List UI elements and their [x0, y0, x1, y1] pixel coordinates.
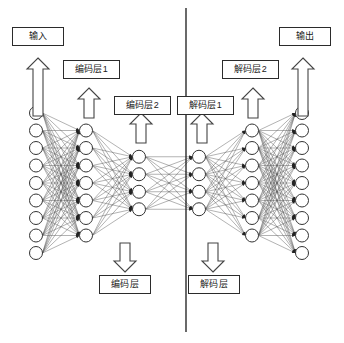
network-edge	[43, 131, 80, 254]
neuron-node-input-layer	[30, 159, 43, 172]
network-edge	[206, 209, 246, 218]
edge-arrowhead	[189, 192, 193, 195]
neuron-node-output-layer	[296, 124, 309, 137]
neuron-node-output-layer	[296, 247, 309, 260]
neuron-node-encoder-bottleneck-layer	[133, 185, 146, 198]
neuron-node-encoder-bottleneck-layer	[133, 203, 146, 216]
neuron-node-output-layer	[296, 177, 309, 190]
network-edge	[206, 131, 246, 175]
network-edge	[206, 201, 246, 210]
network-edge	[259, 113, 296, 166]
arrow-to-encoder-block	[114, 243, 136, 272]
network-edge	[93, 157, 133, 201]
network-edge	[43, 113, 80, 131]
neuron-node-decoder-bottleneck-layer	[193, 150, 206, 163]
neuron-node-encoder-hidden-layer-1	[80, 142, 93, 155]
neuron-node-encoder-bottleneck-layer	[133, 168, 146, 181]
label-decoder-layer-2: 解码层2	[222, 60, 279, 79]
neuron-node-decoder-hidden-layer-1	[246, 229, 259, 242]
network-edge	[93, 192, 133, 236]
neuron-node-encoder-hidden-layer-1	[80, 124, 93, 137]
network-edge	[206, 131, 246, 157]
network-edge	[259, 113, 296, 131]
network-edge	[259, 113, 296, 236]
network-edge	[93, 209, 133, 235]
network-edge	[93, 157, 133, 236]
label-output: 输出	[279, 27, 331, 46]
label-input: 输入	[12, 27, 64, 46]
network-edge	[206, 148, 246, 209]
neuron-node-encoder-hidden-layer-1	[80, 212, 93, 225]
label-decoder-block: 解码层	[188, 275, 240, 294]
network-edge	[259, 113, 296, 201]
neuron-node-encoder-bottleneck-layer	[133, 150, 146, 163]
network-edge	[206, 131, 246, 210]
neuron-node-output-layer	[296, 194, 309, 207]
neuron-node-encoder-hidden-layer-1	[80, 194, 93, 207]
neuron-node-decoder-hidden-layer-1	[246, 194, 259, 207]
neuron-node-decoder-hidden-layer-1	[246, 124, 259, 137]
neuron-node-decoder-hidden-layer-1	[246, 212, 259, 225]
diagram-root: 输入 编码层1 编码层2 解码层1 解码层2 输出 编码层 解码层	[0, 0, 344, 343]
neuron-node-input-layer	[30, 194, 43, 207]
neuron-node-input-layer	[30, 247, 43, 260]
neuron-node-decoder-bottleneck-layer	[193, 203, 206, 216]
network-edge	[93, 157, 133, 166]
arrow-to-input	[27, 58, 49, 116]
network-edge	[206, 183, 246, 209]
arrow-to-encoder-layer-1	[78, 88, 100, 118]
neuron-node-input-layer	[30, 212, 43, 225]
network-edge	[43, 236, 80, 254]
label-decoder-layer-1: 解码层1	[177, 96, 234, 115]
network-edge	[93, 157, 133, 183]
neuron-node-input-layer	[30, 142, 43, 155]
label-encoder-layer-1: 编码层1	[63, 60, 120, 79]
arrow-to-decoder-block	[202, 243, 224, 272]
network-edge	[93, 131, 133, 157]
neuron-node-encoder-hidden-layer-1	[80, 229, 93, 242]
arrow-to-decoder-layer-1	[191, 113, 213, 143]
neuron-node-encoder-hidden-layer-1	[80, 159, 93, 172]
network-edge	[206, 166, 246, 210]
neuron-node-output-layer	[296, 229, 309, 242]
arrow-to-decoder-layer-2	[242, 88, 264, 118]
neuron-node-input-layer	[30, 124, 43, 137]
network-edge	[93, 148, 133, 157]
network-edge	[206, 209, 246, 235]
neuron-node-decoder-bottleneck-layer	[193, 185, 206, 198]
arrow-to-encoder-layer-2	[130, 113, 152, 143]
network-edge	[93, 157, 133, 218]
neuron-node-input-layer	[30, 177, 43, 190]
network-edge	[259, 236, 296, 254]
neuron-node-output-layer	[296, 159, 309, 172]
arrow-to-output	[292, 58, 314, 116]
neuron-node-decoder-hidden-layer-1	[246, 159, 259, 172]
network-diagram-canvas	[0, 0, 344, 343]
neuron-node-decoder-hidden-layer-1	[246, 177, 259, 190]
network-edge	[43, 201, 80, 254]
neuron-node-output-layer	[296, 142, 309, 155]
neuron-node-encoder-hidden-layer-1	[80, 177, 93, 190]
label-encoder-block: 编码层	[99, 275, 151, 294]
neuron-node-decoder-bottleneck-layer	[193, 168, 206, 181]
network-edge	[43, 166, 80, 254]
label-encoder-layer-2: 编码层2	[114, 96, 171, 115]
neuron-node-output-layer	[296, 212, 309, 225]
network-edge	[206, 131, 246, 192]
neuron-node-input-layer	[30, 229, 43, 242]
network-edge	[93, 174, 133, 235]
neuron-node-decoder-hidden-layer-1	[246, 142, 259, 155]
